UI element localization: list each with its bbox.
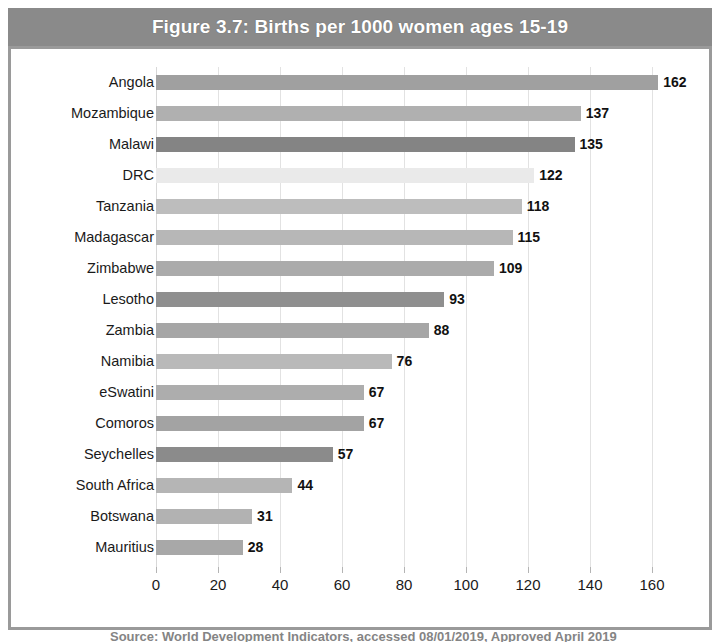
bar-value-label: 67 — [364, 377, 385, 408]
x-tick-label-0: 0 — [136, 576, 176, 593]
x-tick-label-80: 80 — [384, 576, 424, 593]
category-label: Mauritius — [0, 532, 154, 563]
category-label: Comoros — [0, 408, 154, 439]
x-tick-label-160: 160 — [632, 576, 672, 593]
x-tick-mark-100 — [466, 567, 467, 573]
category-label: Angola — [0, 67, 154, 98]
bar[interactable] — [156, 478, 292, 493]
x-tick-mark-0 — [156, 567, 157, 573]
bar[interactable] — [156, 540, 243, 555]
bar-value-label: 28 — [243, 532, 264, 563]
category-label: Madagascar — [0, 222, 154, 253]
bar-value-label: 109 — [494, 253, 522, 284]
x-tick-label-20: 20 — [198, 576, 238, 593]
category-label: eSwatini — [0, 377, 154, 408]
x-tick-label-40: 40 — [260, 576, 300, 593]
bar-row: South Africa44 — [11, 470, 709, 501]
category-label: Lesotho — [0, 284, 154, 315]
bar-value-label: 93 — [444, 284, 465, 315]
x-tick-label-120: 120 — [508, 576, 548, 593]
category-label: Tanzania — [0, 191, 154, 222]
bar[interactable] — [156, 168, 534, 183]
figure-title-bar: Figure 3.7: Births per 1000 women ages 1… — [8, 8, 712, 46]
bar-value-label: 76 — [392, 346, 413, 377]
x-tick-mark-120 — [528, 567, 529, 573]
bar[interactable] — [156, 354, 392, 369]
source-caption: Source: World Development Indicators, ac… — [0, 632, 724, 642]
bar-row: Zambia88 — [11, 315, 709, 346]
bar[interactable] — [156, 447, 333, 462]
bar-value-label: 135 — [575, 129, 603, 160]
category-label: DRC — [0, 160, 154, 191]
category-label: Seychelles — [0, 439, 154, 470]
x-axis: 020406080100120140160 — [11, 567, 709, 607]
bar-value-label: 31 — [252, 501, 273, 532]
bar-row: Namibia76 — [11, 346, 709, 377]
bar[interactable] — [156, 230, 513, 245]
x-tick-mark-60 — [342, 567, 343, 573]
x-tick-mark-80 — [404, 567, 405, 573]
bar-row: Mozambique137 — [11, 98, 709, 129]
category-label: South Africa — [0, 470, 154, 501]
x-tick-mark-20 — [218, 567, 219, 573]
x-tick-mark-40 — [280, 567, 281, 573]
bar[interactable] — [156, 75, 658, 90]
chart-panel: Angola162Mozambique137Malawi135DRC122Tan… — [8, 46, 712, 630]
plot-area: Angola162Mozambique137Malawi135DRC122Tan… — [11, 49, 709, 627]
bar-value-label: 115 — [513, 222, 541, 253]
x-tick-label-60: 60 — [322, 576, 362, 593]
x-tick-label-140: 140 — [570, 576, 610, 593]
category-label: Malawi — [0, 129, 154, 160]
bar-value-label: 162 — [658, 67, 686, 98]
bar-row: Malawi135 — [11, 129, 709, 160]
bar-row: Seychelles57 — [11, 439, 709, 470]
category-label: Namibia — [0, 346, 154, 377]
bar[interactable] — [156, 261, 494, 276]
bar-value-label: 44 — [292, 470, 313, 501]
bar[interactable] — [156, 292, 444, 307]
bar-row: Comoros67 — [11, 408, 709, 439]
bar[interactable] — [156, 106, 581, 121]
category-label: Zimbabwe — [0, 253, 154, 284]
figure-title: Figure 3.7: Births per 1000 women ages 1… — [8, 8, 712, 46]
category-label: Mozambique — [0, 98, 154, 129]
bar-row: Botswana31 — [11, 501, 709, 532]
bar[interactable] — [156, 509, 252, 524]
bar-row: DRC122 — [11, 160, 709, 191]
bar-rows: Angola162Mozambique137Malawi135DRC122Tan… — [11, 67, 709, 563]
x-tick-mark-140 — [590, 567, 591, 573]
bar-value-label: 88 — [429, 315, 450, 346]
bar-row: Mauritius28 — [11, 532, 709, 563]
bar-value-label: 57 — [333, 439, 354, 470]
bar[interactable] — [156, 199, 522, 214]
bar[interactable] — [156, 137, 575, 152]
bar-value-label: 137 — [581, 98, 609, 129]
category-label: Zambia — [0, 315, 154, 346]
bar[interactable] — [156, 416, 364, 431]
bar-row: Tanzania118 — [11, 191, 709, 222]
category-label: Botswana — [0, 501, 154, 532]
x-tick-mark-160 — [652, 567, 653, 573]
bar-row: Angola162 — [11, 67, 709, 98]
bar-row: eSwatini67 — [11, 377, 709, 408]
bar-value-label: 118 — [522, 191, 550, 222]
figure-container: Figure 3.7: Births per 1000 women ages 1… — [8, 8, 712, 630]
bar-value-label: 67 — [364, 408, 385, 439]
bar-value-label: 122 — [534, 160, 562, 191]
x-tick-label-100: 100 — [446, 576, 486, 593]
bar-row: Madagascar115 — [11, 222, 709, 253]
bar-row: Lesotho93 — [11, 284, 709, 315]
bar[interactable] — [156, 323, 429, 338]
bar[interactable] — [156, 385, 364, 400]
bar-row: Zimbabwe109 — [11, 253, 709, 284]
